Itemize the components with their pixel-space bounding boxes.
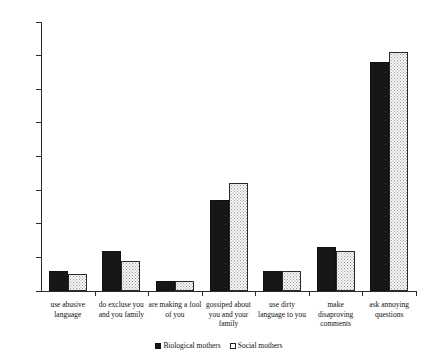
bar-biological-mothers bbox=[49, 271, 68, 291]
bar-group bbox=[102, 22, 140, 291]
bar-biological-mothers bbox=[210, 200, 229, 291]
bar-group bbox=[370, 22, 408, 291]
x-axis-line bbox=[41, 291, 416, 292]
bar-social-mothers bbox=[121, 261, 140, 291]
x-axis-category-label: gossiped aboutyou and yourfamily bbox=[202, 300, 256, 329]
category-label-line: you and your bbox=[202, 310, 256, 320]
x-axis-tick bbox=[148, 291, 149, 296]
legend-label-social: Social mothers bbox=[238, 341, 283, 351]
x-axis-tick bbox=[362, 291, 363, 296]
bar-biological-mothers bbox=[102, 251, 121, 291]
bar-biological-mothers bbox=[317, 247, 336, 291]
category-label-line: make bbox=[309, 300, 363, 310]
bar-social-mothers bbox=[229, 183, 248, 291]
legend-label-biological: Biological mothers bbox=[163, 341, 220, 351]
category-label-line: use abusive bbox=[41, 300, 95, 310]
legend-swatch-icon-social bbox=[230, 343, 236, 349]
bar-social-mothers bbox=[68, 274, 87, 291]
bar-social-mothers bbox=[282, 271, 301, 291]
x-axis-tick bbox=[202, 291, 203, 296]
bar-social-mothers bbox=[336, 251, 355, 291]
x-axis-tick bbox=[309, 291, 310, 296]
x-axis-category-label: use abusivelanguage bbox=[41, 300, 95, 319]
x-axis-category-label: ask annoyingquestions bbox=[362, 300, 416, 319]
category-label-line: ask annoying bbox=[362, 300, 416, 310]
legend-entry-biological-mothers: Biological mothers bbox=[155, 341, 220, 351]
bar-biological-mothers bbox=[370, 62, 389, 291]
x-axis-category-label: do excluse youand you family bbox=[95, 300, 149, 319]
bar-group bbox=[263, 22, 301, 291]
bars-layer bbox=[41, 22, 416, 291]
x-axis-tick bbox=[416, 291, 417, 296]
bar-social-mothers bbox=[175, 281, 194, 291]
bar-group bbox=[317, 22, 355, 291]
category-label-line: use dirty bbox=[255, 300, 309, 310]
category-label-line: disaproving bbox=[309, 310, 363, 320]
x-axis-tick bbox=[255, 291, 256, 296]
bar-group bbox=[156, 22, 194, 291]
category-label-line: do excluse you bbox=[95, 300, 149, 310]
category-label-line: family bbox=[202, 319, 256, 329]
bar-biological-mothers bbox=[156, 281, 175, 291]
legend-entry-social-mothers: Social mothers bbox=[230, 341, 283, 351]
category-label-line: language bbox=[41, 310, 95, 320]
bar-social-mothers bbox=[389, 52, 408, 291]
category-label-line: questions bbox=[362, 310, 416, 320]
bar-chart: 01020304050607080 use abusivelanguagedo … bbox=[0, 0, 438, 364]
category-label-line: gossiped about bbox=[202, 300, 256, 310]
x-axis-category-label: use dirtylanguage to you bbox=[255, 300, 309, 319]
bar-group bbox=[210, 22, 248, 291]
category-label-line: language to you bbox=[255, 310, 309, 320]
category-label-line: and you family bbox=[95, 310, 149, 320]
bar-group bbox=[49, 22, 87, 291]
x-axis-category-label: are making a foolof you bbox=[148, 300, 202, 319]
chart-legend: Biological mothers Social mothers bbox=[0, 341, 438, 351]
legend-swatch-icon-biological bbox=[155, 343, 161, 349]
category-label-line: of you bbox=[148, 310, 202, 320]
category-label-line: comments bbox=[309, 319, 363, 329]
bar-biological-mothers bbox=[263, 271, 282, 291]
x-axis-tick bbox=[95, 291, 96, 296]
x-axis-category-label: makedisaprovingcomments bbox=[309, 300, 363, 329]
category-label-line: are making a fool bbox=[148, 300, 202, 310]
